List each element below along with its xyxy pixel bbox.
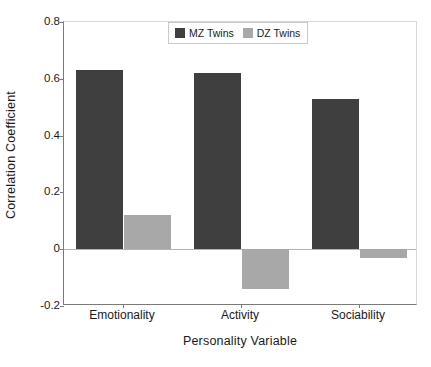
chart-legend: MZ TwinsDZ Twins (168, 22, 308, 44)
legend-swatch-icon (175, 28, 185, 38)
y-tick-mark (60, 192, 64, 193)
x-axis-title: Personality Variable (63, 334, 417, 348)
y-tick-mark (60, 249, 64, 250)
y-tick-label: 0.4 (26, 129, 60, 141)
y-tick-label: 0.2 (26, 185, 60, 197)
legend-entry-mz-twins: MZ Twins (175, 27, 234, 39)
x-axis-tick-labels: EmotionalityActivitySociability (63, 308, 417, 328)
y-tick-mark (60, 306, 64, 307)
legend-swatch-icon (243, 28, 253, 38)
y-tick-label: 0.6 (26, 72, 60, 84)
legend-entry-dz-twins: DZ Twins (243, 27, 301, 39)
bar-emotionality-dz (124, 215, 171, 249)
y-tick-mark (60, 136, 64, 137)
bar-sociability-dz (360, 249, 407, 258)
bar-activity-mz (194, 73, 241, 249)
y-tick-label: 0.8 (26, 15, 60, 27)
legend-label: MZ Twins (189, 27, 234, 39)
x-tick-label: Emotionality (89, 308, 154, 322)
y-tick-label: -0.2 (26, 299, 60, 311)
bar-chart-figure: Correlation Coefficient 0.80.60.40.20-0.… (0, 0, 431, 367)
legend-label: DZ Twins (257, 27, 301, 39)
y-tick-mark (60, 22, 64, 23)
bar-sociability-mz (312, 99, 359, 250)
y-tick-label: 0 (26, 242, 60, 254)
x-tick-label: Sociability (331, 308, 385, 322)
y-tick-mark (60, 79, 64, 80)
y-axis-tick-labels: 0.80.60.40.20-0.2 (22, 0, 60, 367)
plot-area (63, 21, 417, 305)
bar-emotionality-mz (76, 70, 123, 249)
bar-activity-dz (242, 249, 289, 289)
y-axis-title: Correlation Coefficient (0, 0, 22, 310)
x-tick-label: Activity (221, 308, 259, 322)
y-axis-title-text: Correlation Coefficient (4, 91, 18, 219)
